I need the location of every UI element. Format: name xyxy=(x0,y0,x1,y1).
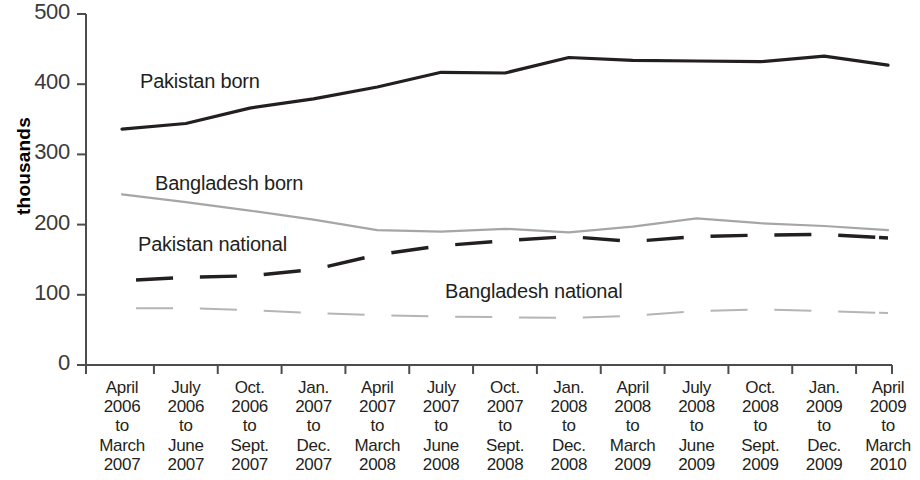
series-label-bangladesh-national: Bangladesh national xyxy=(445,280,622,303)
x-axis-tick-label-line: Sept. xyxy=(471,436,539,455)
x-axis-tick-label-line: 2007 xyxy=(471,397,539,416)
x-axis-tick-label-line: June xyxy=(663,436,731,455)
x-axis-tick-label-line: March xyxy=(599,436,667,455)
x-axis-tick-label: Jan.2009toDec.2009 xyxy=(790,378,858,474)
x-axis-tick-label-line: 2007 xyxy=(152,455,220,474)
x-axis-tick-label-line: Dec. xyxy=(280,436,348,455)
x-axis-tick-label: July2007toJune2008 xyxy=(407,378,475,474)
x-axis-tick-label-line: 2009 xyxy=(790,397,858,416)
series-label-pakistan-born: Pakistan born xyxy=(140,70,260,93)
x-axis-tick-label: Oct.2008toSept.2009 xyxy=(726,378,794,474)
x-axis-tick-label-line: Oct. xyxy=(726,378,794,397)
x-axis-tick-label-line: July xyxy=(407,378,475,397)
x-axis-tick-label: April2009toMarch2010 xyxy=(854,378,920,474)
x-axis-tick-label: July2008toJune2009 xyxy=(663,378,731,474)
x-axis-tick-label-line: 2008 xyxy=(663,397,731,416)
x-axis-tick-label-line: 2008 xyxy=(535,455,603,474)
x-axis-tick-label: April2008toMarch2009 xyxy=(599,378,667,474)
x-axis-tick-label-line: 2009 xyxy=(726,455,794,474)
x-axis-tick-label-line: Jan. xyxy=(790,378,858,397)
x-axis-tick-label-line: March xyxy=(88,436,156,455)
x-axis-tick-label-line: 2008 xyxy=(726,397,794,416)
x-axis-tick-label: Jan.2007toDec.2007 xyxy=(280,378,348,474)
x-axis-tick-label-line: to xyxy=(535,416,603,435)
x-axis-tick-label-line: Sept. xyxy=(726,436,794,455)
x-axis-tick-label-line: Jan. xyxy=(535,378,603,397)
x-axis-tick-label-line: Oct. xyxy=(216,378,284,397)
x-axis-tick-label-line: 2008 xyxy=(535,397,603,416)
x-axis-tick-label: July2006toJune2007 xyxy=(152,378,220,474)
x-axis-tick-label-line: 2007 xyxy=(88,455,156,474)
x-axis-tick-label-line: 2009 xyxy=(663,455,731,474)
x-axis-tick-label-line: Oct. xyxy=(471,378,539,397)
x-axis-tick-label-line: 2008 xyxy=(599,397,667,416)
x-axis-tick-label-line: to xyxy=(599,416,667,435)
x-axis-tick-label-line: 2007 xyxy=(280,397,348,416)
x-axis-tick-label: April2007toMarch2008 xyxy=(343,378,411,474)
x-axis-tick-label-line: to xyxy=(790,416,858,435)
x-axis-tick-label-line: 2007 xyxy=(216,455,284,474)
x-axis-tick-label-line: 2006 xyxy=(88,397,156,416)
x-axis-tick-label-line: 2008 xyxy=(471,455,539,474)
x-axis-tick-label-line: 2009 xyxy=(790,455,858,474)
x-axis-tick-label-line: Dec. xyxy=(535,436,603,455)
series-label-pakistan-national: Pakistan national xyxy=(138,233,287,256)
y-axis-ticks xyxy=(77,14,86,365)
x-axis-tick-label: Oct.2007toSept.2008 xyxy=(471,378,539,474)
x-axis-tick-label-line: 2007 xyxy=(407,397,475,416)
x-axis-tick-label-line: 2009 xyxy=(854,397,920,416)
x-axis-tick-label: Jan.2008toDec.2008 xyxy=(535,378,603,474)
x-axis-tick-label-line: to xyxy=(152,416,220,435)
x-axis-tick-label-line: 2010 xyxy=(854,455,920,474)
x-axis-tick-label-line: 2007 xyxy=(280,455,348,474)
x-axis-tick-label-line: 2008 xyxy=(343,455,411,474)
x-axis-tick-label-line: Dec. xyxy=(790,436,858,455)
x-axis-tick-label-line: July xyxy=(663,378,731,397)
x-axis-tick-label-line: to xyxy=(343,416,411,435)
x-axis-tick-label-line: to xyxy=(407,416,475,435)
x-axis-tick-label-line: to xyxy=(280,416,348,435)
x-axis-tick-label-line: to xyxy=(88,416,156,435)
x-axis-tick-label-line: 2008 xyxy=(407,455,475,474)
x-axis-tick-label-line: to xyxy=(216,416,284,435)
x-axis-tick-label-line: Jan. xyxy=(280,378,348,397)
series-bangladesh-born xyxy=(122,194,888,232)
x-axis-tick-label-line: March xyxy=(854,436,920,455)
x-axis-tick-label-line: 2009 xyxy=(599,455,667,474)
x-axis-tick-label-line: to xyxy=(854,416,920,435)
x-axis-tick-label-line: 2006 xyxy=(152,397,220,416)
x-axis-tick-label-line: June xyxy=(152,436,220,455)
series-label-bangladesh-born: Bangladesh born xyxy=(155,172,303,195)
x-axis-tick-label-line: to xyxy=(726,416,794,435)
x-axis-ticks xyxy=(86,365,892,374)
x-axis-tick-label-line: March xyxy=(343,436,411,455)
x-axis-tick-label: Oct.2006toSept.2007 xyxy=(216,378,284,474)
x-axis-tick-label-line: to xyxy=(663,416,731,435)
x-axis-tick-label-line: June xyxy=(407,436,475,455)
series-bangladesh-national xyxy=(136,308,888,318)
x-axis-tick-label-line: Sept. xyxy=(216,436,284,455)
x-axis-tick-label-line: April xyxy=(854,378,920,397)
x-axis-tick-label-line: April xyxy=(343,378,411,397)
x-axis-tick-label-line: to xyxy=(471,416,539,435)
x-axis-tick-label-line: April xyxy=(599,378,667,397)
x-axis-tick-label-line: July xyxy=(152,378,220,397)
x-axis-tick-label-line: April xyxy=(88,378,156,397)
x-axis-tick-label-line: 2007 xyxy=(343,397,411,416)
x-axis-tick-label-line: 2006 xyxy=(216,397,284,416)
x-axis-tick-label: April2006toMarch2007 xyxy=(88,378,156,474)
line-chart: thousands 5004003002001000 Pakistan born… xyxy=(0,0,920,480)
